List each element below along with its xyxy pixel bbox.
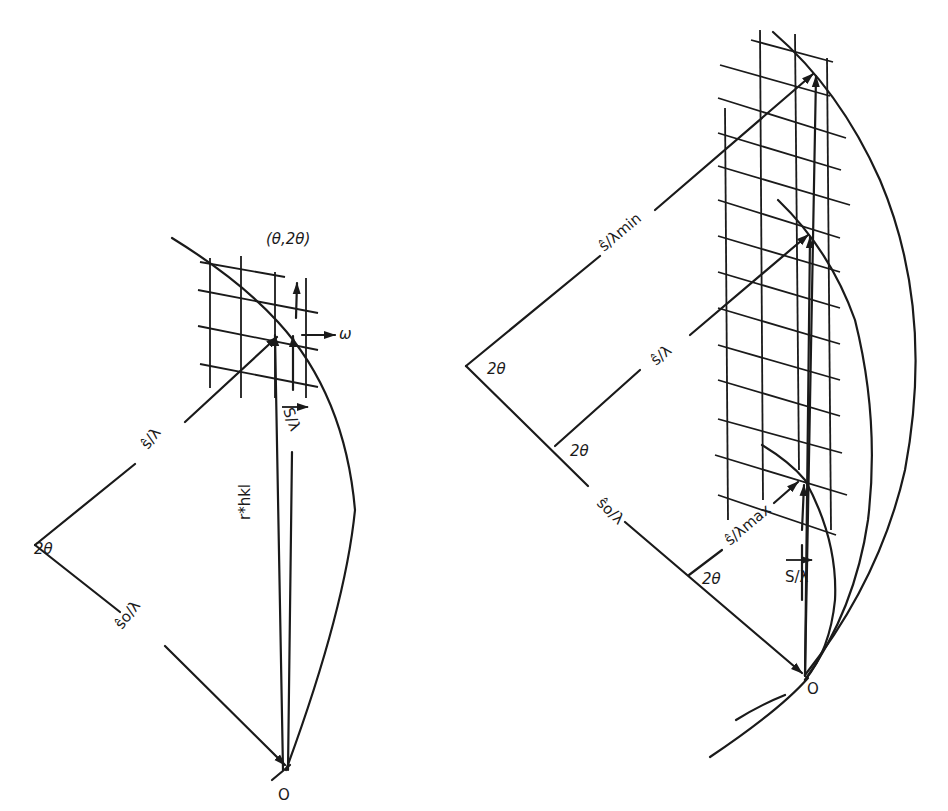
right-diffracted-max-label: ŝ/λmax [721, 500, 774, 549]
right-diffracted-label: ŝ/λ [647, 341, 675, 369]
theta-2theta-label: (θ,2θ) [266, 230, 310, 248]
left-rhkl-label: r*hkl [236, 484, 254, 520]
right-origin-label: O [807, 680, 819, 698]
left-s-lambda-vector [288, 452, 292, 770]
right-incident-label: ŝo/λ [593, 494, 628, 529]
right-angle-label-low: 2θ [702, 570, 721, 588]
left-diffracted-label: ŝ/λ [137, 424, 165, 452]
right-diffracted-beam [555, 370, 640, 446]
left-diffracted-beam [35, 464, 135, 545]
right-diffracted-min-label: ŝ/λmin [595, 209, 645, 255]
right-diffracted-min-beam [466, 256, 600, 366]
ewald-sphere-diagram: 2θ ŝo/λ ŝ/λ S/λ r*hkl (θ,2θ) ω O [0, 0, 948, 811]
right-incident-beam [466, 366, 588, 486]
left-panel: 2θ ŝo/λ ŝ/λ S/λ r*hkl (θ,2θ) ω O [34, 230, 355, 804]
right-panel: 2θ 2θ 2θ ŝ/λmin ŝ/λ ŝ/λmax ŝo/λ S/λ O [466, 30, 916, 757]
left-incident-label: ŝo/λ [111, 597, 144, 633]
theta-2theta-arrow [296, 283, 297, 318]
left-angle-label: 2θ [34, 540, 53, 558]
right-angle-label-top: 2θ [487, 360, 506, 378]
right-angle-label-mid: 2θ [570, 442, 589, 460]
left-ewald-circle-arc [172, 238, 355, 770]
left-origin-label: O [278, 786, 290, 804]
omega-label: ω [339, 325, 352, 343]
right-scattering-label: S/λ [785, 568, 809, 586]
left-rhkl-vector [275, 335, 283, 770]
left-reciprocal-lattice-grid [198, 256, 318, 398]
left-scattering-label: S/λ [279, 405, 304, 433]
right-ewald-circle-tail [710, 678, 808, 757]
